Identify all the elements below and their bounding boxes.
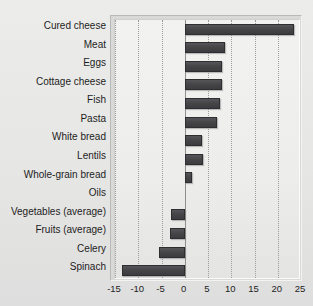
x-tick-label: 25 [295,283,306,294]
category-label: Oils [89,184,106,203]
category-label: Lentils [77,147,106,166]
x-tick-label: 0 [181,283,186,294]
category-label: Eggs [83,54,106,73]
bar-row [115,243,299,262]
bar [185,42,225,53]
bar-row [115,206,299,225]
bar-row [115,169,299,188]
chart-figure: Cured cheeseMeatEggsCottage cheeseFishPa… [0,0,313,306]
bar-row [115,261,299,279]
x-axis-tick-labels: -15-10-50510152025 [110,281,302,303]
bar-row [115,94,299,113]
bar [185,135,203,146]
bar-row [115,131,299,150]
plot-frame [110,15,302,281]
category-label: Spinach [70,258,106,277]
category-label: Whole-grain bread [24,166,106,185]
x-tick-label: 10 [225,283,236,294]
bar [185,117,218,128]
bar [171,209,185,220]
bar [122,265,184,276]
bar-row [115,113,299,132]
bar-row [115,57,299,76]
category-label: White bread [52,128,106,147]
category-label: Cottage cheese [36,73,106,92]
chart-title [0,0,313,4]
bar-row [115,224,299,243]
bar-row [115,187,299,206]
category-label: Pasta [80,110,106,129]
bar-row [115,39,299,58]
category-label: Celery [77,240,106,259]
category-label: Cured cheese [44,17,106,36]
bar [185,98,220,109]
bar [185,61,223,72]
category-label: Vegetables (average) [11,203,106,222]
category-label: Fish [87,91,106,110]
x-tick-label: 15 [248,283,259,294]
bar [170,228,185,239]
bar [185,79,222,90]
bar [185,172,192,183]
x-tick-label: 20 [271,283,282,294]
plot-area [114,19,300,279]
bar-row [115,20,299,39]
x-tick-label: 5 [204,283,209,294]
x-tick-label: -10 [130,283,144,294]
category-label: Fruits (average) [35,221,106,240]
bar [159,247,185,258]
category-label: Meat [84,36,106,55]
bar-row [115,150,299,169]
category-axis-labels: Cured cheeseMeatEggsCottage cheeseFishPa… [0,17,110,279]
x-tick-label: -5 [156,283,164,294]
bar-row [115,76,299,95]
bar [185,24,294,35]
bar [185,154,203,165]
x-tick-label: -15 [107,283,121,294]
